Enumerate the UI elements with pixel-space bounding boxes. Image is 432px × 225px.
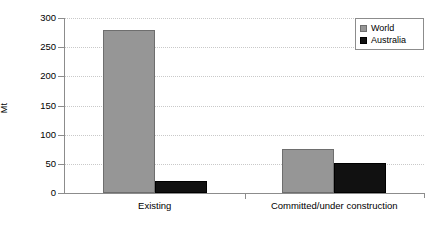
legend: World Australia: [355, 18, 424, 50]
y-axis-tick-label: 100: [24, 130, 56, 140]
legend-label-australia: Australia: [371, 36, 406, 45]
x-axis-separator: [245, 193, 246, 199]
y-axis-tick-label: 200: [24, 72, 56, 82]
y-axis-tick-label: 0: [24, 188, 56, 198]
y-axis-tick-label: 300: [24, 13, 56, 23]
y-axis-tickmark: [58, 47, 64, 48]
bar-chart: Mt 050100150200250300 ExistingCommitted/…: [0, 0, 432, 225]
x-axis-endcap: [424, 193, 425, 198]
y-axis-tick-label: 50: [24, 159, 56, 169]
bar-world-1: [282, 149, 334, 193]
y-axis-tickmark: [58, 164, 64, 165]
y-axis-tickmark: [58, 106, 64, 107]
legend-swatch-australia-icon: [360, 37, 367, 44]
y-axis-tickmark: [58, 135, 64, 136]
bar-world-0: [103, 30, 155, 193]
legend-item-australia: Australia: [360, 34, 419, 46]
bar-australia-0: [155, 181, 207, 193]
y-axis-tickmark: [58, 76, 64, 77]
legend-label-world: World: [371, 24, 394, 33]
bar-australia-1: [334, 163, 386, 193]
y-axis-tick-label: 150: [24, 101, 56, 111]
y-axis-tick-label: 250: [24, 42, 56, 52]
y-axis-tickmark: [58, 18, 64, 19]
x-axis-label-0: Existing: [138, 200, 171, 211]
legend-item-world: World: [360, 22, 419, 34]
legend-swatch-world-icon: [360, 25, 367, 32]
x-axis-label-1: Committed/under construction: [271, 200, 398, 211]
